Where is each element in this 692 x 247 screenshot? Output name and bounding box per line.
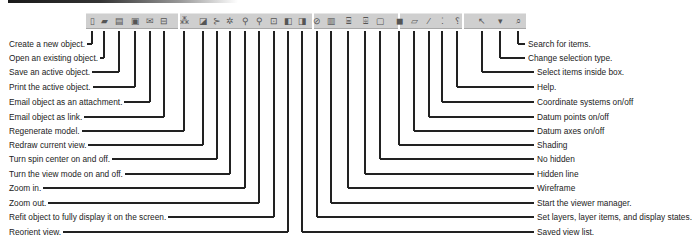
help-icon: ⸮ xyxy=(455,15,460,27)
leader-line-vertical xyxy=(202,31,203,145)
email-attach-button[interactable]: ✉ xyxy=(144,15,156,27)
leader-line-vertical xyxy=(517,31,518,44)
callout-label: Print the active object. xyxy=(9,82,91,92)
csys-button[interactable]: ⁚ xyxy=(436,15,448,27)
printer-icon: ▣ xyxy=(131,15,140,27)
viewer-manager-button[interactable]: ▥ xyxy=(325,15,337,27)
leader-line-horizontal xyxy=(518,43,525,44)
callout-label: Reorient view. xyxy=(9,227,61,237)
callout-label: Coordinate systems on/off xyxy=(537,97,633,107)
leader-line-horizontal xyxy=(365,173,534,174)
select-box-button[interactable]: ↖ xyxy=(476,15,488,27)
leader-line-vertical xyxy=(301,31,302,232)
leader-line-horizontal xyxy=(317,216,534,217)
help-button[interactable]: ⸮ xyxy=(451,15,463,27)
datum-axes-button[interactable]: ⏥ xyxy=(408,15,420,27)
no-hidden-button[interactable]: ▢ xyxy=(374,15,386,27)
leader-line-vertical xyxy=(316,31,317,217)
callout-label: Zoom out. xyxy=(9,198,46,208)
callout-label: Email object as link. xyxy=(9,112,82,122)
callout-label: Save an active object. xyxy=(9,67,90,77)
leader-line-vertical xyxy=(149,31,150,102)
leader-line-vertical xyxy=(244,31,245,188)
zoom-out-icon: ⚲ xyxy=(256,15,263,27)
leader-line-horizontal xyxy=(82,130,184,131)
datum-points-button[interactable]: ⁄ xyxy=(423,15,435,27)
new-button[interactable]: ▯ xyxy=(86,15,98,27)
leader-line-vertical xyxy=(413,31,414,131)
refit-button[interactable]: ⊡ xyxy=(268,15,280,27)
leader-line-horizontal xyxy=(87,43,92,44)
hidden-line-button[interactable]: ⌹ xyxy=(359,15,371,27)
open-button[interactable]: ▰ xyxy=(98,15,110,27)
save-button[interactable]: ▤ xyxy=(113,15,125,27)
leader-line-vertical xyxy=(118,31,119,72)
spin-button[interactable]: ⊱ xyxy=(211,15,223,27)
callout-label: Datum points on/off xyxy=(537,112,609,122)
callout-label: Search for items. xyxy=(528,39,591,49)
view-mode-button[interactable]: ✲ xyxy=(224,15,236,27)
leader-line-vertical xyxy=(347,31,348,188)
leader-line-vertical xyxy=(273,31,274,217)
zoom-out-button[interactable]: ⚲ xyxy=(253,15,265,27)
selection-type-button[interactable]: ▾ xyxy=(494,15,506,27)
redraw-icon: ◪ xyxy=(199,15,208,27)
email-link-icon: ⊟ xyxy=(160,15,168,27)
coordinate-systems-icon: ⁚ xyxy=(441,15,444,27)
callout-label: Turn spin center on and off. xyxy=(9,154,110,164)
leader-line-vertical xyxy=(398,31,399,145)
leader-line-horizontal xyxy=(84,116,164,117)
saved-views-button[interactable]: ◨ xyxy=(296,15,308,27)
leader-line-vertical xyxy=(481,31,482,72)
leader-line-horizontal xyxy=(63,231,288,232)
email-attachment-icon: ✉ xyxy=(146,15,154,27)
callout-label: Refit object to fully display it on the … xyxy=(9,212,166,222)
leader-line-vertical xyxy=(456,31,457,87)
leader-line-horizontal xyxy=(93,86,135,87)
zoom-in-icon: ⚲ xyxy=(242,15,249,27)
no-hidden-icon: ▢ xyxy=(376,15,385,27)
leader-line-horizontal xyxy=(48,202,259,203)
email-link-button[interactable]: ⊟ xyxy=(158,15,170,27)
leader-line-horizontal xyxy=(399,144,534,145)
callout-label: Turn the view mode on and off. xyxy=(9,169,123,179)
new-document-icon: ▯ xyxy=(90,15,95,27)
reorient-button[interactable]: ◧ xyxy=(282,15,294,27)
callout-label: Help. xyxy=(537,82,556,92)
leader-line-vertical xyxy=(379,31,380,159)
callout-label: Select items inside box. xyxy=(537,67,624,77)
spin-center-icon: ⊱ xyxy=(213,15,221,27)
wireframe-button[interactable]: ⌸ xyxy=(342,15,354,27)
leader-line-vertical xyxy=(441,31,442,102)
leader-line-horizontal xyxy=(348,187,534,188)
callout-label: Email object as an attachment. xyxy=(9,97,122,107)
hidden-line-icon: ⌹ xyxy=(363,15,368,27)
saved-views-icon: ◨ xyxy=(298,15,307,27)
callout-label: Change selection type. xyxy=(528,53,612,63)
search-button[interactable]: ⌕ xyxy=(512,15,524,27)
graphics-toolbar: ▯▰▤▣✉⊟⁂◪⊱✲⚲⚲⊡◧◨⊘▥⌸⌹▢◼⏥⁄⁚⸮↖▾⌕ xyxy=(86,13,526,29)
redraw-button[interactable]: ◪ xyxy=(197,15,209,27)
reorient-icon: ◧ xyxy=(284,15,293,27)
callout-label: Open an existing object. xyxy=(9,53,98,63)
regen-button[interactable]: ⁂ xyxy=(178,15,190,27)
top-rule xyxy=(8,0,238,3)
refit-icon: ⊡ xyxy=(270,15,278,27)
leader-line-vertical xyxy=(163,31,164,117)
callout-label: Datum axes on/off xyxy=(537,126,604,136)
zoom-in-button[interactable]: ⚲ xyxy=(239,15,251,27)
callout-label: Hidden line xyxy=(537,169,579,179)
layers-icon: ⊘ xyxy=(313,15,321,27)
leader-line-horizontal xyxy=(380,158,534,159)
callout-label: Create a new object. xyxy=(9,39,85,49)
print-button[interactable]: ▣ xyxy=(129,15,141,27)
leader-line-vertical xyxy=(216,31,217,159)
shading-button[interactable]: ◼ xyxy=(393,15,405,27)
leader-line-horizontal xyxy=(124,101,150,102)
layers-button[interactable]: ⊘ xyxy=(311,15,323,27)
viewer-manager-icon: ▥ xyxy=(327,15,336,27)
leader-line-horizontal xyxy=(482,71,534,72)
callout-label: Set layers, layer items, and display sta… xyxy=(537,212,692,222)
callout-label: Zoom in. xyxy=(9,183,41,193)
save-icon: ▤ xyxy=(115,15,124,27)
